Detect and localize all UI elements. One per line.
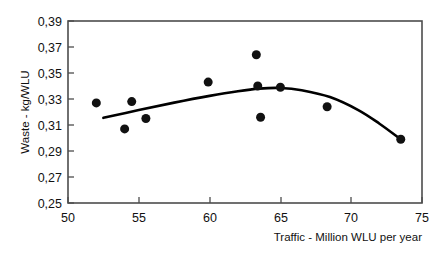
data-point: [253, 82, 262, 91]
data-point: [141, 114, 150, 123]
data-point: [396, 135, 405, 144]
y-tick-label: 0,29: [38, 145, 62, 159]
data-point: [120, 124, 129, 133]
x-tick-label: 50: [61, 211, 75, 225]
x-tick-label: 55: [132, 211, 146, 225]
x-tick-label: 75: [415, 211, 429, 225]
data-point: [204, 78, 213, 87]
y-tick-label: 0,35: [38, 67, 62, 81]
y-tick-label: 0,37: [38, 41, 62, 55]
data-point: [256, 113, 265, 122]
x-axis-title: Traffic - Million WLU per year: [274, 231, 422, 243]
data-point: [127, 97, 136, 106]
x-tick-label: 60: [203, 211, 217, 225]
y-tick-label: 0,25: [38, 197, 62, 211]
y-tick-label: 0,33: [38, 93, 62, 107]
y-tick-label: 0,31: [38, 119, 62, 133]
y-axis-title: Waste - kg/WLU: [19, 70, 31, 153]
data-point: [276, 83, 285, 92]
data-point: [252, 50, 261, 59]
y-tick-label: 0,39: [38, 15, 62, 29]
data-point: [92, 98, 101, 107]
chart-container: 0,39 0,37 0,35 0,33 0,31 0,29 0,27 0,25 …: [0, 0, 443, 254]
data-point: [323, 102, 332, 111]
x-tick-label: 65: [274, 211, 288, 225]
y-tick-label: 0,27: [38, 171, 62, 185]
scatter-chart: 0,39 0,37 0,35 0,33 0,31 0,29 0,27 0,25 …: [0, 0, 443, 254]
x-tick-label: 70: [344, 211, 358, 225]
